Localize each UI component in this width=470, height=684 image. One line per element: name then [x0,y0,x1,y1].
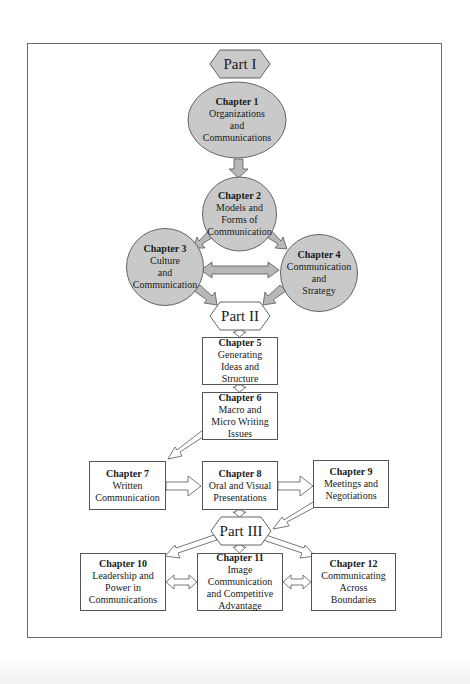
part2-label: Part II [210,302,270,330]
chapter-2-node: Chapter 2 Models and Forms of Communicat… [202,178,277,250]
chapter-4-node: Chapter 4 Communication and Strategy [280,236,358,310]
chapter-1-number: Chapter 1 [216,96,259,108]
chapter-1-node: Chapter 1 Organizations and Communicatio… [188,84,286,156]
chapter-12-number: Chapter 12 [330,558,378,570]
chapter-11-number: Chapter 11 [216,552,263,564]
chapter-11-box: Chapter 11 Image Communication and Compe… [197,553,283,611]
chapter-7-title: Written Communication [95,480,159,504]
arrow-ch6-to-ch7 [168,430,206,459]
chapter-11-title: Image Communication and Competitive Adva… [198,564,282,612]
chapter-8-number: Chapter 8 [219,468,262,480]
chapter-12-box: Chapter 12 Communicating Across Boundari… [311,553,396,611]
arrow-ch1-to-ch2 [229,159,248,178]
chapter-7-box: Chapter 7 Written Communication [89,461,166,510]
chapter-3-number: Chapter 3 [144,243,187,255]
chapter-9-number: Chapter 9 [330,466,373,478]
arrow-ch7-to-ch8 [166,476,201,496]
chapter-10-number: Chapter 10 [99,558,147,570]
arrow-part2-to-ch5 [233,330,246,337]
chapter-9-title: Meetings and Negotiations [324,478,378,502]
chapter-6-title: Macro and Micro Writing Issues [211,404,268,440]
chapter-10-title: Leadership and Power in Communications [89,570,157,606]
chapter-4-title: Communication and Strategy [287,261,351,297]
chapter-6-number: Chapter 6 [219,392,262,404]
arrow-ch5-to-ch6 [233,385,246,392]
arrow-ch11-ch12-bidirectional [283,575,311,589]
chapter-5-box: Chapter 5 Generating Ideas and Structure [202,337,278,385]
chapter-1-title: Organizations and Communications [203,108,271,144]
chapter-9-box: Chapter 9 Meetings and Negotiations [313,460,389,508]
arrow-ch8-to-part3 [233,510,246,517]
chapter-10-box: Chapter 10 Leadership and Power in Commu… [80,553,166,611]
chapter-3-node: Chapter 3 Culture and Communication [126,230,204,304]
chapter-6-box: Chapter 6 Macro and Micro Writing Issues [202,392,278,440]
arrow-ch8-to-ch9 [278,476,313,496]
chapter-12-title: Communicating Across Boundaries [321,570,385,606]
chapter-8-box: Chapter 8 Oral and Visual Presentations [202,461,278,510]
arrow-ch3-ch4-bidirectional [201,262,279,278]
chapter-5-title: Generating Ideas and Structure [218,349,262,385]
chapter-5-number: Chapter 5 [219,337,262,349]
chapter-3-title: Culture and Communication [133,255,197,291]
chapter-2-number: Chapter 2 [218,190,261,202]
chapter-2-title: Models and Forms of Communication [207,202,271,238]
arrow-ch10-ch11-bidirectional [166,575,197,589]
chapter-7-number: Chapter 7 [106,468,149,480]
part3-label: Part III [211,517,271,545]
chapter-8-title: Oral and Visual Presentations [209,480,272,504]
chapter-4-number: Chapter 4 [298,249,341,261]
arrow-ch9-to-part3 [273,502,315,529]
part1-label: Part I [210,50,270,78]
